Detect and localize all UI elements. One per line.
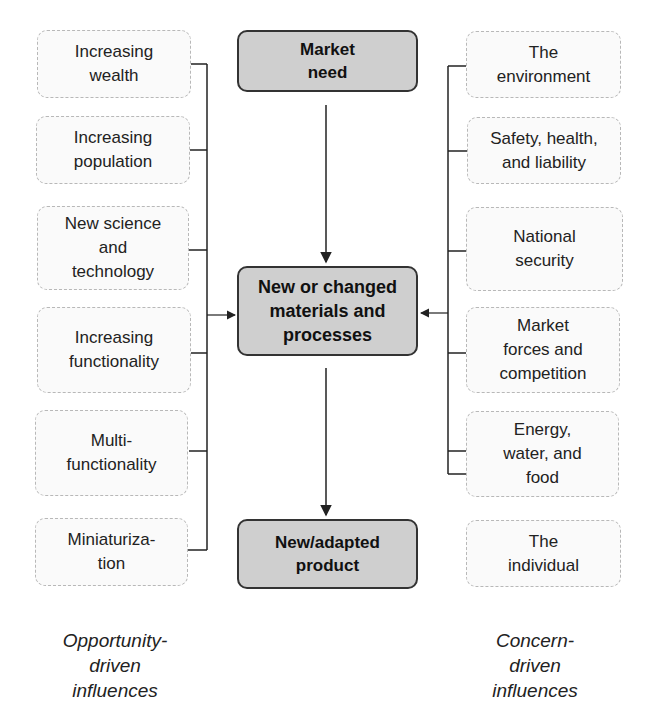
factor-label: Increasing wealth <box>75 40 153 88</box>
factor-safety-health-liability: Safety, health, and liability <box>467 117 621 184</box>
market-need-label: Market need <box>300 38 355 84</box>
opportunity-driven-caption: Opportunity- driven influences <box>20 628 210 703</box>
materials-processes-box: New or changed materials and processes <box>237 266 418 356</box>
factor-increasing-wealth: Increasing wealth <box>37 30 191 98</box>
factor-label: Market forces and competition <box>500 314 587 386</box>
materials-label: New or changed materials and processes <box>258 275 397 347</box>
factor-environment: The environment <box>466 31 621 98</box>
factor-multi-functionality: Multi- functionality <box>35 410 188 496</box>
factor-increasing-population: Increasing population <box>36 116 190 184</box>
product-label: New/adapted product <box>275 531 380 577</box>
factor-label: Miniaturiza- tion <box>68 528 156 576</box>
market-need-box: Market need <box>237 30 418 92</box>
factor-label: The environment <box>497 41 591 89</box>
factor-label: Energy, water, and food <box>503 418 581 490</box>
factor-miniaturization: Miniaturiza- tion <box>35 518 188 586</box>
new-product-box: New/adapted product <box>237 519 418 589</box>
factor-label: Increasing functionality <box>69 326 159 374</box>
factor-label: Multi- functionality <box>67 429 157 477</box>
factor-label: Increasing population <box>74 126 152 174</box>
factor-national-security: National security <box>466 207 623 291</box>
factor-market-forces: Market forces and competition <box>466 307 620 393</box>
factor-the-individual: The individual <box>466 520 621 587</box>
factor-label: The individual <box>508 530 579 578</box>
factor-new-science-technology: New science and technology <box>37 206 189 290</box>
factor-label: New science and technology <box>65 212 161 284</box>
factor-label: Safety, health, and liability <box>490 127 597 175</box>
concern-driven-caption: Concern- driven influences <box>440 628 630 703</box>
factor-energy-water-food: Energy, water, and food <box>466 411 619 497</box>
factor-increasing-functionality: Increasing functionality <box>37 307 191 393</box>
factor-label: National security <box>513 225 575 273</box>
